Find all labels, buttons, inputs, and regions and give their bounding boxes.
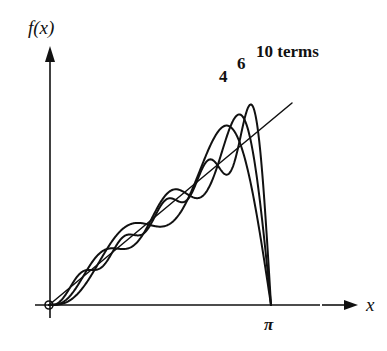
x-axis-label: x	[365, 294, 375, 315]
y-axis-arrowhead-icon	[45, 46, 55, 62]
pi-tick-label: π	[264, 315, 274, 334]
label-10-terms: 10 terms	[256, 42, 319, 61]
label-4-terms: 4	[219, 67, 228, 86]
series-6-terms	[49, 114, 271, 305]
y-axis-label: f(x)	[28, 17, 54, 39]
label-6-terms: 6	[237, 54, 246, 73]
fourier-chart: f(x) x π 4 6 10 terms	[0, 0, 387, 351]
x-axis-arrowhead-icon	[344, 300, 358, 310]
curves	[49, 103, 292, 305]
